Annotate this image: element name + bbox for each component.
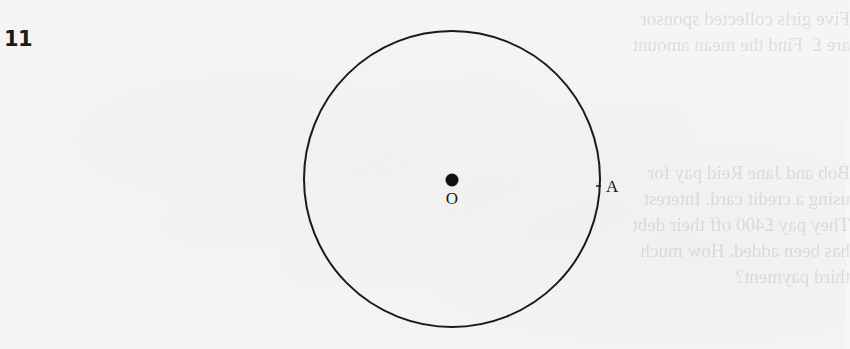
- label-o: O: [446, 189, 458, 208]
- centre-point-o: [446, 174, 459, 187]
- label-a: A: [606, 177, 619, 196]
